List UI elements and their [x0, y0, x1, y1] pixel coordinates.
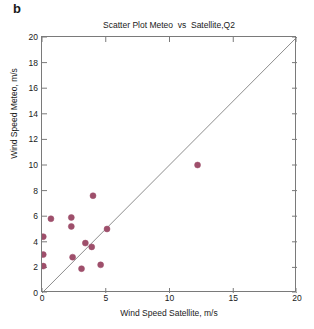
data-point	[79, 266, 85, 272]
y-tick-label: 12	[29, 135, 38, 144]
y-tick-label: 14	[29, 109, 38, 118]
y-tick-label: 10	[29, 161, 38, 170]
data-point	[42, 263, 46, 269]
data-point	[70, 254, 76, 260]
data-point	[42, 252, 46, 258]
data-point	[104, 226, 110, 232]
data-point	[82, 240, 88, 246]
y-tick-label: 2	[33, 263, 38, 272]
x-tick-label: 10	[165, 294, 174, 303]
data-point	[68, 223, 74, 229]
y-axis-label: Wind Speed Meteo, m/s	[9, 44, 20, 184]
data-point	[195, 162, 201, 168]
identity-line	[42, 37, 297, 293]
y-tick-label: 20	[29, 33, 38, 42]
data-point	[98, 262, 104, 268]
x-tick-label: 5	[103, 294, 108, 303]
y-tick-label: 6	[33, 212, 38, 221]
y-tick-label: 18	[29, 58, 38, 67]
plot-canvas	[42, 37, 297, 293]
x-tick-label: 0	[40, 294, 45, 303]
x-axis-label: Wind Speed Satellite, m/s	[41, 308, 297, 319]
x-tick-label: 20	[292, 294, 301, 303]
y-tick-label: 16	[29, 84, 38, 93]
y-tick-label: 4	[33, 237, 38, 246]
y-tick-label: 0	[33, 289, 38, 298]
data-point	[42, 234, 46, 240]
y-tick-label: 8	[33, 186, 38, 195]
plot-area: 0246810121416182005101520	[41, 36, 296, 292]
data-point	[48, 216, 54, 222]
data-point	[90, 193, 96, 199]
x-tick-label: 15	[229, 294, 238, 303]
chart-title: Scatter Plot Meteo vs Satellite,Q2	[41, 20, 297, 31]
panel-label: b	[13, 2, 21, 16]
scatter-plot-figure: b Scatter Plot Meteo vs Satellite,Q2 024…	[0, 0, 314, 329]
data-point	[68, 214, 74, 220]
data-point	[89, 244, 95, 250]
